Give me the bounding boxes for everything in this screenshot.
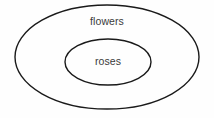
inner-set-label: roses — [1, 55, 214, 67]
outer-set-label: flowers — [0, 15, 214, 27]
diagram-canvas: flowers roses — [0, 0, 214, 118]
